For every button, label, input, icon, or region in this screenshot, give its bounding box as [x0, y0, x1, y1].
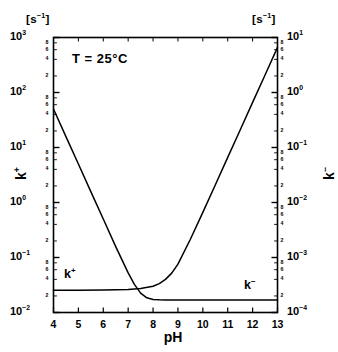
y-axis-right-label--3: 10−3: [287, 251, 307, 262]
y-minor-label-left: 4: [46, 56, 49, 61]
y-axis-right-label--4: 10−4: [287, 306, 307, 317]
x-axis-tick-label-10: 10: [194, 319, 212, 330]
y-minor-label-right: 4: [281, 166, 284, 171]
curve-label-k-minus: k−: [244, 279, 255, 292]
y-axis-left-label-2: 102: [10, 86, 26, 97]
y-minor-label-right: 8: [281, 40, 284, 45]
y-axis-left-title: k+: [14, 167, 28, 180]
curve-kminus: [54, 47, 278, 290]
y-minor-label-left: 6: [46, 47, 49, 52]
y-minor-label-left: 4: [46, 221, 49, 226]
y-minor-label-right: 2: [281, 238, 284, 243]
y-axis-left-label--1: 10−1: [10, 251, 30, 262]
y-minor-label-left: 4: [46, 166, 49, 171]
y-minor-label-right: 6: [281, 47, 284, 52]
y-axis-left-label-1: 101: [10, 141, 26, 152]
x-axis-tick-label-13: 13: [269, 319, 287, 330]
y-minor-label-right: 8: [281, 95, 284, 100]
y-minor-label-right: 2: [281, 183, 284, 188]
y-axis-right-label-1: 101: [287, 31, 303, 42]
y-minor-label-left: 8: [46, 260, 49, 265]
x-axis-tick-label-11: 11: [219, 319, 237, 330]
y-minor-label-right: 2: [281, 293, 284, 298]
curve-kplus: [54, 109, 278, 300]
x-axis-tick-label-4: 4: [45, 319, 63, 330]
y-axis-right-title: k−: [322, 167, 336, 180]
y-minor-label-right: 4: [281, 56, 284, 61]
y-axis-left-label-3: 103: [10, 31, 26, 42]
y-minor-label-right: 6: [281, 157, 284, 162]
y-minor-label-right: 8: [281, 150, 284, 155]
y-minor-label-left: 2: [46, 128, 49, 133]
y-minor-label-right: 6: [281, 102, 284, 107]
y-minor-label-right: 6: [281, 267, 284, 272]
y-minor-label-right: 4: [281, 111, 284, 116]
y-minor-label-left: 6: [46, 267, 49, 272]
x-axis-tick-label-12: 12: [244, 319, 262, 330]
left-axis-unit: [s−1]: [26, 14, 50, 26]
y-minor-label-right: 2: [281, 128, 284, 133]
y-minor-label-left: 8: [46, 150, 49, 155]
y-minor-label-left: 6: [46, 212, 49, 217]
x-axis-tick-label-9: 9: [169, 319, 187, 330]
y-axis-right-label--1: 10−1: [287, 141, 307, 152]
y-minor-label-left: 2: [46, 183, 49, 188]
y-minor-label-left: 2: [46, 293, 49, 298]
plot-frame: [54, 38, 278, 313]
y-minor-label-right: 4: [281, 221, 284, 226]
temperature-annotation: T = 25°C: [72, 52, 128, 65]
x-axis-tick-label-7: 7: [119, 319, 137, 330]
x-axis-tick-label-6: 6: [94, 319, 112, 330]
x-axis-tick-label-5: 5: [69, 319, 87, 330]
x-axis-tick-label-8: 8: [144, 319, 162, 330]
y-minor-label-left: 6: [46, 157, 49, 162]
y-minor-label-right: 8: [281, 205, 284, 210]
y-minor-label-right: 6: [281, 212, 284, 217]
y-axis-left-label--2: 10−2: [10, 306, 30, 317]
y-minor-label-left: 2: [46, 73, 49, 78]
y-axis-left-label-0: 100: [10, 196, 26, 207]
y-minor-label-left: 4: [46, 111, 49, 116]
y-minor-label-left: 6: [46, 102, 49, 107]
y-minor-label-right: 8: [281, 260, 284, 265]
right-axis-unit: [s−1]: [252, 14, 276, 26]
curve-label-k-plus: k+: [64, 268, 75, 281]
y-minor-label-left: 4: [46, 276, 49, 281]
y-minor-label-right: 4: [281, 276, 284, 281]
y-minor-label-left: 8: [46, 95, 49, 100]
y-minor-label-left: 2: [46, 238, 49, 243]
y-minor-label-right: 2: [281, 73, 284, 78]
y-minor-label-left: 8: [46, 205, 49, 210]
x-axis-title: pH: [8, 330, 338, 344]
y-axis-right-label-0: 100: [287, 86, 303, 97]
y-minor-label-left: 8: [46, 40, 49, 45]
y-axis-right-label--2: 10−2: [287, 196, 307, 207]
